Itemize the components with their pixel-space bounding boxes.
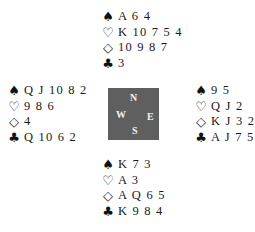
south-spades-cards: K 7 3	[118, 157, 152, 173]
west-hand: ♠ Q J 10 8 2 ♡ 9 8 6 ◇ 4 ♣ Q 10 6 2	[7, 83, 87, 145]
east-hearts-cards: Q J 2	[211, 99, 243, 115]
north-hand: ♠ A 6 4 ♡ K 10 7 5 4 ◇ 10 9 8 7 ♣ 3	[101, 9, 183, 71]
east-diamonds-row: ◇ K J 3 2	[194, 114, 255, 130]
club-icon: ♣	[194, 130, 208, 146]
south-diamonds-row: ◇ A Q 6 5	[101, 188, 166, 204]
north-spades-row: ♠ A 6 4	[101, 9, 183, 25]
compass-box: N W E S	[108, 88, 159, 140]
spade-icon: ♠	[194, 83, 208, 99]
west-clubs-cards: Q 10 6 2	[24, 130, 77, 146]
east-diamonds-cards: K J 3 2	[211, 114, 255, 130]
south-clubs-cards: K 9 8 4	[118, 204, 164, 220]
heart-icon: ♡	[101, 173, 115, 189]
east-spades-cards: 9 5	[211, 83, 230, 99]
east-hand: ♠ 9 5 ♡ Q J 2 ◇ K J 3 2 ♣ A J 7 5	[194, 83, 255, 145]
south-clubs-row: ♣ K 9 8 4	[101, 204, 166, 220]
north-diamonds-cards: 10 9 8 7	[118, 40, 168, 56]
east-clubs-row: ♣ A J 7 5	[194, 130, 255, 146]
east-spades-row: ♠ 9 5	[194, 83, 255, 99]
north-spades-cards: A 6 4	[118, 9, 151, 25]
club-icon: ♣	[101, 56, 115, 72]
east-hearts-row: ♡ Q J 2	[194, 99, 255, 115]
south-hand: ♠ K 7 3 ♡ A 3 ◇ A Q 6 5 ♣ K 9 8 4	[101, 157, 166, 219]
south-spades-row: ♠ K 7 3	[101, 157, 166, 173]
west-spades-row: ♠ Q J 10 8 2	[7, 83, 87, 99]
north-clubs-row: ♣ 3	[101, 56, 183, 72]
spade-icon: ♠	[101, 9, 115, 25]
club-icon: ♣	[101, 204, 115, 220]
west-clubs-row: ♣ Q 10 6 2	[7, 130, 87, 146]
west-hearts-cards: 9 8 6	[24, 99, 55, 115]
north-hearts-row: ♡ K 10 7 5 4	[101, 25, 183, 41]
west-spades-cards: Q J 10 8 2	[24, 83, 87, 99]
north-clubs-cards: 3	[118, 56, 125, 72]
compass-east-label: E	[147, 112, 154, 122]
south-diamonds-cards: A Q 6 5	[118, 188, 166, 204]
north-hearts-cards: K 10 7 5 4	[118, 25, 183, 41]
spade-icon: ♠	[101, 157, 115, 173]
heart-icon: ♡	[194, 99, 208, 115]
west-diamonds-row: ◇ 4	[7, 114, 87, 130]
club-icon: ♣	[7, 130, 21, 146]
west-diamonds-cards: 4	[24, 114, 31, 130]
diamond-icon: ◇	[101, 40, 115, 56]
east-clubs-cards: A J 7 5	[211, 130, 254, 146]
diamond-icon: ◇	[194, 114, 208, 130]
compass-south-label: S	[132, 126, 138, 136]
compass-north-label: N	[130, 93, 137, 103]
west-hearts-row: ♡ 9 8 6	[7, 99, 87, 115]
heart-icon: ♡	[101, 25, 115, 41]
heart-icon: ♡	[7, 99, 21, 115]
north-diamonds-row: ◇ 10 9 8 7	[101, 40, 183, 56]
south-hearts-row: ♡ A 3	[101, 173, 166, 189]
compass-west-label: W	[116, 110, 126, 120]
diamond-icon: ◇	[7, 114, 21, 130]
south-hearts-cards: A 3	[118, 173, 139, 189]
spade-icon: ♠	[7, 83, 21, 99]
diamond-icon: ◇	[101, 188, 115, 204]
